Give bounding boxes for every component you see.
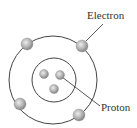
proton-particle: [40, 70, 49, 79]
nucleus-boundary: [32, 58, 76, 102]
proton-leader-line: [62, 77, 100, 106]
proton-label: Proton: [101, 102, 130, 113]
electrons-group: [14, 38, 88, 121]
electron-particle: [76, 40, 88, 52]
electron-label: Electron: [87, 10, 124, 21]
protons-group: [40, 70, 65, 94]
electron-particle: [21, 38, 33, 50]
electron-leader-line: [86, 24, 103, 41]
proton-particle: [56, 71, 65, 80]
proton-particle: [50, 85, 59, 94]
electron-particle: [14, 98, 26, 110]
electron-particle: [73, 109, 85, 121]
